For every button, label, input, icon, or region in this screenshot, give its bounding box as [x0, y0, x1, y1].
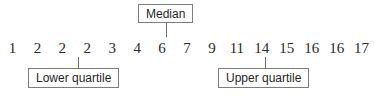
- data-value: 11: [224, 38, 249, 58]
- data-value: 2: [25, 38, 50, 58]
- data-value: 17: [349, 38, 374, 58]
- data-value: 3: [100, 38, 125, 58]
- median-callout-box: Median: [138, 4, 193, 23]
- data-value: 1: [0, 38, 25, 58]
- upper-quartile-callout-box: Upper quartile: [218, 68, 309, 88]
- data-value: 16: [324, 38, 349, 58]
- median-leader-line: [166, 23, 167, 37]
- upper-quartile-label: Upper quartile: [226, 71, 301, 85]
- data-value: 16: [299, 38, 324, 58]
- data-value: 14: [249, 38, 274, 58]
- median-label: Median: [146, 7, 185, 21]
- data-value-median: 7: [175, 38, 200, 58]
- lower-quartile-label: Lower quartile: [36, 71, 111, 85]
- lower-quartile-callout-box: Lower quartile: [28, 68, 119, 88]
- data-value-lower-quartile: 2: [75, 38, 100, 58]
- statistics-quartile-diagram: Median 1 2 2 2 3 4 6 7 9 11 14 15 16 16 …: [0, 0, 374, 96]
- data-value: 9: [200, 38, 225, 58]
- data-value: 6: [150, 38, 175, 58]
- data-value: 4: [125, 38, 150, 58]
- data-value-upper-quartile: 15: [274, 38, 299, 58]
- data-value: 2: [50, 38, 75, 58]
- ordered-data-row: 1 2 2 2 3 4 6 7 9 11 14 15 16 16 17: [0, 38, 374, 58]
